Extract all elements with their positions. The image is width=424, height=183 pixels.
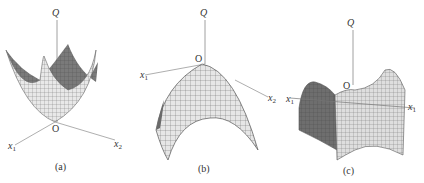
x1-axis-label: x1 [8,141,16,153]
concave-dome-surface [140,0,285,183]
panel-b: Q O x1 x2 (b) [140,0,285,183]
caption-b: (b) [198,163,210,174]
x1-axis-label: x1 [140,70,148,82]
panel-c: Q O x1 x1 (c) [285,0,424,183]
caption-a: (a) [55,161,66,172]
x2-axis-label: x2 [268,93,276,105]
caption-c: (c) [343,165,354,176]
q-axis-label: Q [52,8,59,18]
q-axis-label: Q [347,18,354,28]
convex-bowl-surface [0,0,140,183]
panel-a: Q O x1 x2 (a) [0,0,140,183]
saddle-surface [285,0,424,183]
q-axis-label: Q [200,8,207,18]
origin-label: O [52,124,59,134]
x1-axis-label: x1 [286,94,294,106]
origin-label: O [343,81,350,91]
origin-label: O [195,54,202,64]
x1-right-axis-label: x1 [408,102,416,114]
x2-axis-label: x2 [114,139,122,151]
